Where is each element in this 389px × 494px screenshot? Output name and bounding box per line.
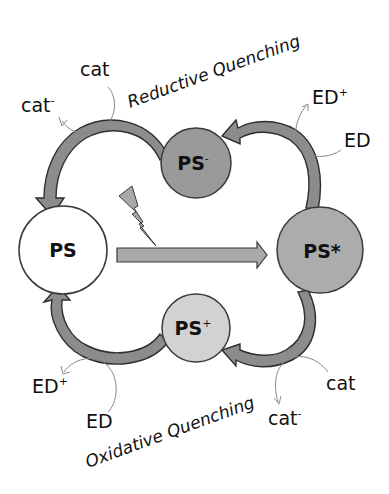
node-ps-plus-label: PS xyxy=(175,317,203,339)
species-cat-bottom: cat xyxy=(326,372,356,394)
node-ps-star: PS* xyxy=(277,207,363,293)
excitation-arrow xyxy=(117,242,267,268)
arrow-ps-star-to-ps-plus xyxy=(222,290,315,367)
node-ps-plus: PS+ xyxy=(162,294,230,362)
species-cat-reduced-top: cat- xyxy=(21,94,55,116)
node-ps-label: PS xyxy=(49,239,77,261)
species-cat-top: cat xyxy=(80,58,110,80)
thin-arrow-cat-reduction-bottom xyxy=(274,357,328,404)
species-cat-reduced-bottom: cat- xyxy=(268,407,302,429)
svg-text:PS-: PS- xyxy=(177,152,209,174)
node-ps-star-label: PS* xyxy=(303,240,341,262)
arrow-ps-star-to-ps-minus xyxy=(222,120,320,210)
thin-arrow-ed-oxidation-bottom xyxy=(61,359,116,413)
node-ps: PS xyxy=(19,206,107,294)
diagram-canvas: PS PS- PS* PS+ xyxy=(0,0,389,494)
node-ps-minus: PS- xyxy=(161,128,231,198)
arrow-ps-minus-to-ps xyxy=(36,120,168,216)
node-ps-minus-label: PS xyxy=(177,152,205,174)
lightning-bolt-icon xyxy=(119,186,156,246)
node-ps-minus-charge: - xyxy=(205,152,209,165)
reductive-quenching-title: Reductive Quenching xyxy=(125,31,303,112)
species-ed-oxidized-top: ED+ xyxy=(312,86,348,108)
species-ed-oxidized-bottom: ED+ xyxy=(32,375,68,397)
arrow-ps-plus-to-ps xyxy=(44,286,168,364)
species-ed-bottom: ED xyxy=(86,410,113,432)
species-ed-top: ED xyxy=(344,129,371,151)
node-ps-plus-charge: + xyxy=(202,317,211,330)
